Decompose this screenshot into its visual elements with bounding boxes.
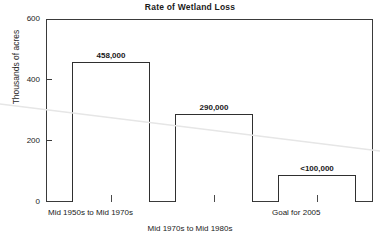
x-tick-mark-3 — [317, 195, 318, 202]
bar-value-label-3: <100,000 — [278, 164, 356, 173]
bar-mid-1970s-to-mid-1980s — [175, 114, 253, 202]
bar-mid-1950s-to-mid-1970s — [72, 62, 150, 202]
x-label-goal-for-2005: Goal for 2005 — [272, 208, 320, 217]
bar-value-label-2: 290,000 — [175, 103, 253, 112]
y-axis-title: Thousands of acres — [11, 7, 21, 127]
chart-figure: Rate of Wetland Loss 600 400 200 0 Thous… — [0, 0, 380, 243]
x-label-mid-1950s-to-mid-1970s: Mid 1950s to Mid 1970s — [48, 208, 133, 217]
y-tick-label-0: 0 — [6, 197, 40, 206]
x-tick-mark-2 — [214, 195, 215, 202]
y-tick-label-200: 200 — [6, 136, 40, 145]
bar-value-label-1: 458,000 — [72, 51, 150, 60]
chart-title: Rate of Wetland Loss — [0, 2, 380, 12]
x-tick-mark-1 — [111, 195, 112, 202]
x-label-mid-1970s-to-mid-1980s: Mid 1970s to Mid 1980s — [0, 224, 380, 233]
